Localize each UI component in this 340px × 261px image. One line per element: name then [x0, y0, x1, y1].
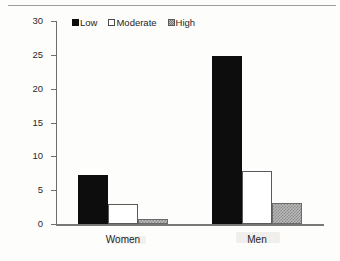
bar-men-moderate: [242, 171, 272, 224]
x-axis-line: [56, 224, 324, 226]
y-axis-tick: 30: [51, 21, 56, 22]
cvd-deaths-bar-chart: CVD Deaths per 10,000 person-years Low M…: [0, 0, 340, 261]
bar-women-low: [78, 175, 108, 224]
y-axis-tick-label: 10: [32, 152, 43, 162]
y-axis-tick: 20: [51, 89, 56, 90]
y-axis-tick-label: 5: [38, 185, 43, 195]
x-axis-label-women: Women: [106, 235, 140, 245]
y-axis-tick: 25: [51, 55, 56, 56]
y-axis-tick-label: 0: [38, 219, 43, 229]
y-axis-line: [56, 21, 57, 225]
y-axis-tick-label: 25: [32, 50, 43, 60]
page-rule-line: [8, 5, 336, 6]
y-axis-tick-label: 30: [32, 16, 43, 26]
bar-women-high: [138, 219, 168, 224]
y-axis-tick: 15: [51, 123, 56, 124]
bar-men-low: [212, 56, 242, 224]
bar-women-moderate: [108, 204, 138, 224]
y-axis-tick: 10: [51, 156, 56, 157]
y-axis-tick: 5: [51, 190, 56, 191]
y-axis-tick-label: 20: [32, 84, 43, 94]
y-axis-tick-label: 15: [32, 118, 43, 128]
bar-men-high: [272, 203, 302, 224]
y-axis-tick: 0: [51, 224, 56, 225]
x-axis-label-men: Men: [247, 235, 266, 245]
plot-area: 051015202530 WomenMen: [56, 21, 324, 224]
